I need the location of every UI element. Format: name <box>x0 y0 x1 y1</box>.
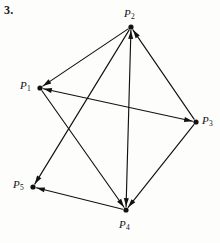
graph-edge-p1-p4 <box>42 91 124 207</box>
arrowhead <box>36 187 45 192</box>
graph-vertex-p2 <box>128 24 133 29</box>
arrowhead <box>43 79 51 86</box>
vertex-label-subscript: 3 <box>209 119 213 128</box>
graph-edge-p3-p2 <box>133 30 194 119</box>
edge-line <box>43 89 192 122</box>
edge-line <box>43 29 128 86</box>
edge-line <box>36 188 122 209</box>
graph-edge-p2-p1 <box>43 29 128 86</box>
arrowhead <box>124 198 129 207</box>
edge-line <box>133 30 194 119</box>
vertex-label-subscript: 1 <box>27 84 31 93</box>
vertex-label-base: P <box>13 178 20 190</box>
vertex-label-base: P <box>202 114 209 126</box>
graph-vertex-p1 <box>37 85 42 90</box>
vertex-label-p2: P2 <box>124 8 134 19</box>
graph-edge-p2-p5 <box>35 30 129 184</box>
vertex-label-subscript: 2 <box>131 12 135 21</box>
edge-line <box>128 125 194 208</box>
vertex-label-base: P <box>20 79 27 91</box>
edge-line <box>42 91 124 207</box>
vertex-label-subscript: 5 <box>20 183 24 192</box>
vertex-label-p3: P3 <box>202 115 212 126</box>
arrowhead <box>117 199 124 207</box>
edge-layer <box>35 29 194 209</box>
arrowhead <box>35 176 42 185</box>
vertex-layer <box>30 24 198 212</box>
graph-edge-p1-p3 <box>43 88 192 122</box>
vertex-label-base: P <box>119 218 126 230</box>
graph-vertex-p4 <box>123 207 128 212</box>
graph-edge-p3-p4 <box>128 125 194 208</box>
vertex-label-base: P <box>124 7 131 19</box>
graph-edge-p2-p4 <box>124 30 133 206</box>
directed-graph-figure <box>0 0 220 243</box>
vertex-label-subscript: 4 <box>126 223 130 232</box>
graph-edge-p4-p5 <box>36 187 122 209</box>
vertex-label-p5: P5 <box>13 179 23 190</box>
vertex-label-p4: P4 <box>119 219 129 230</box>
arrowhead <box>184 117 193 122</box>
edge-line <box>35 30 129 184</box>
graph-vertex-p3 <box>193 119 198 124</box>
figure-page: 3. P1P2P3P4P5 <box>0 0 220 243</box>
arrowhead <box>128 30 133 39</box>
arrowhead <box>43 88 52 93</box>
vertex-label-p1: P1 <box>20 80 30 91</box>
graph-vertex-p5 <box>30 184 35 189</box>
edge-line <box>126 30 131 206</box>
arrowhead <box>133 30 140 38</box>
